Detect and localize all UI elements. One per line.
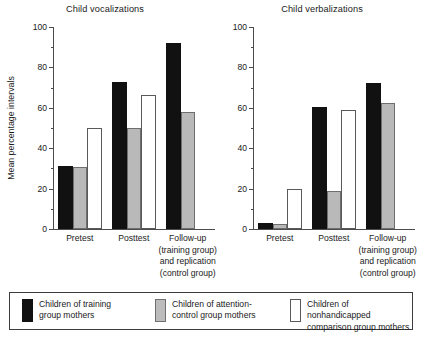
bar bbox=[381, 103, 396, 229]
y-tick-100 bbox=[249, 27, 253, 28]
y-tick-30 bbox=[51, 168, 54, 169]
legend-label: Children of attention- control group mot… bbox=[172, 299, 256, 322]
legend-item: Children of attention- control group mot… bbox=[155, 299, 256, 322]
bar bbox=[258, 223, 273, 229]
y-tick-label-100: 100 bbox=[233, 22, 247, 32]
y-tick-70 bbox=[251, 88, 254, 89]
y-axis-label-left: Mean percentage intervals bbox=[6, 48, 16, 208]
bar bbox=[58, 166, 73, 229]
y-tick-label-100: 100 bbox=[33, 22, 47, 32]
bar bbox=[341, 110, 356, 229]
y-tick-20 bbox=[49, 189, 53, 190]
y-tick-40 bbox=[49, 148, 53, 149]
y-tick-30 bbox=[251, 168, 254, 169]
figure-container: Child vocalizations Mean percentage inte… bbox=[0, 0, 429, 340]
chart-legend: Children of training group mothersChildr… bbox=[9, 292, 413, 330]
legend-swatch-white bbox=[290, 299, 301, 322]
y-tick-10 bbox=[251, 209, 254, 210]
chart-panel-verbalizations: Child verbalizations 020406080100 Pretes… bbox=[222, 0, 429, 285]
legend-swatch-gray bbox=[155, 299, 166, 322]
bar-group bbox=[312, 27, 356, 229]
bar-group bbox=[112, 27, 156, 229]
bar bbox=[181, 112, 196, 229]
chart-panels: Child vocalizations Mean percentage inte… bbox=[0, 0, 429, 285]
bar bbox=[166, 43, 181, 229]
bar bbox=[366, 83, 381, 229]
x-category-label: Follow-up(training group)and replication… bbox=[333, 233, 429, 279]
y-tick-40 bbox=[249, 148, 253, 149]
y-tick-0 bbox=[49, 229, 53, 230]
y-tick-label-60: 60 bbox=[37, 103, 47, 113]
bar bbox=[87, 128, 102, 229]
bar bbox=[73, 167, 88, 229]
chart-title-left: Child vocalizations bbox=[10, 4, 200, 14]
y-tick-80 bbox=[49, 67, 53, 68]
bar bbox=[327, 191, 342, 229]
y-tick-60 bbox=[49, 108, 53, 109]
bar bbox=[312, 107, 327, 229]
y-tick-label-20: 20 bbox=[237, 184, 247, 194]
y-tick-50 bbox=[51, 128, 54, 129]
bar-group bbox=[58, 27, 102, 229]
y-tick-label-80: 80 bbox=[37, 62, 47, 72]
bar-group-container-left bbox=[54, 27, 215, 229]
y-tick-100 bbox=[49, 27, 53, 28]
y-tick-label-60: 60 bbox=[237, 103, 247, 113]
plot-area-left: 020406080100 PretestPosttestFollow-up(tr… bbox=[53, 27, 215, 230]
y-tick-20 bbox=[249, 189, 253, 190]
legend-item: Children of training group mothers bbox=[22, 299, 111, 322]
x-axis-line-left bbox=[53, 229, 215, 230]
y-tick-50 bbox=[251, 128, 254, 129]
bar-group-container-right bbox=[254, 27, 415, 229]
bar bbox=[112, 82, 127, 229]
legend-label: Children of nonhandicapped comparison gr… bbox=[307, 299, 412, 333]
bar-group bbox=[258, 27, 302, 229]
y-tick-60 bbox=[249, 108, 253, 109]
bar-group bbox=[166, 27, 210, 229]
y-tick-90 bbox=[251, 47, 254, 48]
y-tick-0 bbox=[249, 229, 253, 230]
plot-area-right: 020406080100 PretestPosttestFollow-up(tr… bbox=[253, 27, 415, 230]
y-tick-80 bbox=[249, 67, 253, 68]
y-tick-90 bbox=[51, 47, 54, 48]
x-axis-line-right bbox=[253, 229, 415, 230]
y-tick-label-40: 40 bbox=[37, 143, 47, 153]
bar bbox=[127, 128, 142, 229]
y-tick-label-20: 20 bbox=[37, 184, 47, 194]
chart-title-right: Child verbalizations bbox=[222, 4, 422, 14]
chart-panel-vocalizations: Child vocalizations Mean percentage inte… bbox=[0, 0, 222, 285]
bar-group bbox=[366, 27, 410, 229]
legend-swatch-black bbox=[22, 299, 33, 322]
legend-item: Children of nonhandicapped comparison gr… bbox=[290, 299, 412, 333]
y-tick-70 bbox=[51, 88, 54, 89]
y-tick-label-40: 40 bbox=[237, 143, 247, 153]
y-tick-10 bbox=[51, 209, 54, 210]
legend-label: Children of training group mothers bbox=[39, 299, 111, 322]
bar bbox=[141, 95, 156, 229]
bar bbox=[287, 189, 302, 229]
y-tick-label-80: 80 bbox=[237, 62, 247, 72]
bar bbox=[273, 224, 288, 229]
